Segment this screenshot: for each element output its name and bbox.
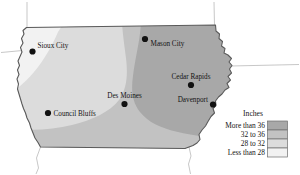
legend-swatch (268, 121, 288, 130)
legend-swatch (268, 139, 288, 148)
map-legend: Inches More than 36 32 to 36 28 to 32 Le… (225, 109, 287, 157)
neighbor-line-north-east (214, 2, 215, 26)
legend-label: 28 to 32 (241, 139, 266, 148)
city-label-cedar-rapids: Cedar Rapids (172, 73, 211, 81)
legend-swatch (268, 130, 288, 139)
city-dot (210, 101, 216, 107)
neighbor-line-southeast (189, 147, 192, 174)
legend-swatch (268, 148, 288, 157)
city-marker-council-bluffs[interactable]: Council Bluffs (45, 110, 96, 118)
neighbor-line-west (1, 51, 23, 53)
legend-entry-32-to-36[interactable]: 32 to 36 (241, 130, 288, 139)
legend-label: Less than 28 (228, 148, 266, 157)
legend-entry-28-to-32[interactable]: 28 to 32 (241, 139, 288, 148)
city-dot (29, 48, 35, 54)
map-canvas: Sioux City Mason City Cedar Rapids Des M… (0, 0, 300, 175)
city-dot (121, 101, 127, 107)
legend-entry-less-than-28[interactable]: Less than 28 (228, 148, 288, 157)
city-dot (142, 36, 148, 42)
legend-label: 32 to 36 (241, 130, 266, 139)
city-dot (45, 110, 51, 116)
neighbor-line-east (231, 65, 299, 67)
city-label-sioux-city: Sioux City (38, 42, 69, 50)
legend-entry-more-than-36[interactable]: More than 36 (225, 121, 287, 130)
city-label-mason-city: Mason City (151, 40, 185, 48)
city-label-council-bluffs: Council Bluffs (54, 110, 97, 118)
city-label-davenport: Davenport (178, 96, 208, 104)
precipitation-map: Sioux City Mason City Cedar Rapids Des M… (0, 0, 300, 175)
legend-label: More than 36 (225, 121, 265, 130)
neighbor-line-southwest (36, 147, 41, 174)
legend-title: Inches (243, 109, 263, 118)
city-dot (188, 82, 194, 88)
city-label-des-moines: Des Moines (107, 92, 142, 100)
